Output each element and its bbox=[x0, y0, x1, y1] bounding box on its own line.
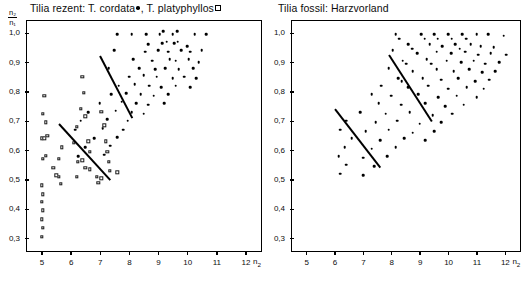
data-point-open-square bbox=[57, 175, 60, 178]
x-tick-mark bbox=[70, 251, 71, 255]
data-point-dot bbox=[167, 51, 170, 54]
data-point-dot bbox=[445, 59, 448, 62]
plot-frame-left bbox=[26, 20, 262, 252]
y-tick-mark bbox=[290, 179, 294, 180]
y-tick-label: 0,7 bbox=[9, 116, 20, 125]
data-point-dot bbox=[134, 83, 137, 86]
data-point-dot bbox=[492, 46, 495, 49]
data-point-dot bbox=[400, 103, 403, 106]
data-point-dot bbox=[447, 33, 450, 36]
data-point-dot bbox=[115, 109, 118, 112]
data-point-dot bbox=[431, 114, 434, 117]
data-point-dot bbox=[394, 33, 397, 36]
data-point-dot bbox=[450, 52, 453, 55]
data-point-dot bbox=[427, 84, 430, 87]
data-point-open-square bbox=[103, 124, 106, 127]
data-point-dot bbox=[465, 86, 468, 89]
data-point-dot bbox=[481, 71, 484, 74]
x-tick-mark bbox=[187, 251, 188, 255]
data-point-dot bbox=[380, 84, 383, 87]
data-point-open-square bbox=[100, 110, 103, 113]
data-point-dot bbox=[139, 93, 142, 96]
x-tick-label: 10 bbox=[439, 258, 459, 267]
data-point-dot bbox=[489, 52, 492, 55]
y-tick-mark bbox=[25, 150, 29, 151]
panel-tilia-fossil: Tilia fossil: Harzvorland n2 0,30,40,50,… bbox=[268, 0, 529, 281]
data-point-dot bbox=[460, 61, 463, 64]
y-tick-label: 0,6 bbox=[274, 146, 285, 155]
data-point-dot bbox=[109, 145, 112, 148]
data-point-open-square bbox=[60, 146, 63, 149]
y-tick-mark bbox=[290, 238, 294, 239]
data-point-dot bbox=[474, 80, 477, 83]
data-point-open-square bbox=[116, 171, 119, 174]
data-point-dot bbox=[398, 37, 401, 40]
plot-frame-right bbox=[291, 20, 521, 252]
data-point-dot bbox=[411, 131, 414, 134]
data-point-open-square bbox=[75, 175, 78, 178]
y-tick-mark bbox=[25, 179, 29, 180]
data-point-dot bbox=[397, 77, 400, 80]
data-point-dot bbox=[453, 70, 456, 73]
x-tick-label: 8 bbox=[382, 258, 402, 267]
data-point-dot bbox=[87, 111, 90, 114]
data-point-dot bbox=[392, 49, 395, 52]
x-tick-label: 12 bbox=[236, 258, 256, 267]
data-point-dot bbox=[174, 59, 177, 62]
y-tick-label: 1,0 bbox=[274, 28, 285, 37]
x-tick-label: 6 bbox=[325, 258, 345, 267]
data-point-dot bbox=[151, 59, 154, 62]
y-tick-mark bbox=[25, 238, 29, 239]
data-point-dot bbox=[451, 112, 454, 115]
data-point-dot bbox=[189, 86, 192, 89]
y-tick-mark bbox=[290, 150, 294, 151]
data-point-open-square bbox=[59, 182, 62, 185]
y-tick-mark bbox=[290, 91, 294, 92]
data-point-dot bbox=[125, 92, 128, 95]
y-tick-label: 0,4 bbox=[274, 204, 285, 213]
data-point-dot bbox=[423, 37, 426, 40]
data-point-dot bbox=[189, 51, 192, 54]
data-point-dot bbox=[502, 34, 505, 37]
data-point-open-square bbox=[84, 166, 87, 169]
data-point-dot bbox=[405, 62, 408, 65]
data-point-open-square bbox=[75, 125, 78, 128]
data-point-dot bbox=[154, 68, 157, 71]
data-point-dot bbox=[472, 59, 475, 62]
x-tick-label: 11 bbox=[467, 258, 487, 267]
data-point-open-square bbox=[43, 137, 46, 140]
data-point-open-square bbox=[108, 169, 111, 172]
data-point-dot bbox=[440, 121, 443, 124]
data-point-dot bbox=[126, 120, 129, 123]
data-point-dot bbox=[110, 93, 113, 96]
y-tick-label: 0,3 bbox=[274, 234, 285, 243]
y-tick-mark bbox=[25, 209, 29, 210]
y-tick-label: 0,5 bbox=[274, 175, 285, 184]
data-point-dot bbox=[417, 93, 420, 96]
data-point-dot bbox=[487, 33, 490, 36]
data-point-dot bbox=[74, 128, 77, 131]
x-tick-mark bbox=[100, 251, 101, 255]
data-point-dot bbox=[147, 43, 150, 46]
data-point-dot bbox=[387, 67, 390, 70]
data-point-dot bbox=[147, 103, 150, 106]
data-point-dot bbox=[155, 76, 158, 79]
data-point-open-square bbox=[40, 235, 43, 238]
x-tick-mark bbox=[41, 251, 42, 255]
data-point-dot bbox=[370, 93, 373, 96]
data-point-dot bbox=[488, 78, 491, 81]
data-point-dot bbox=[451, 37, 454, 40]
data-point-open-square bbox=[40, 218, 43, 221]
x-tick-mark bbox=[419, 251, 420, 255]
data-point-open-square bbox=[84, 115, 87, 118]
panel-left-title: Tilia rezent: T. cordata, T. platyphyllo… bbox=[30, 2, 222, 14]
data-point-dot bbox=[477, 53, 480, 56]
y-axis-numerator: n₂ bbox=[8, 9, 17, 18]
x-tick-mark bbox=[245, 251, 246, 255]
data-point-open-square bbox=[86, 140, 89, 143]
y-tick-label: 0,4 bbox=[9, 204, 20, 213]
data-point-dot bbox=[148, 84, 151, 87]
x-tick-label: 5 bbox=[297, 258, 317, 267]
data-point-dot bbox=[152, 95, 155, 98]
data-point-dot bbox=[411, 48, 414, 51]
